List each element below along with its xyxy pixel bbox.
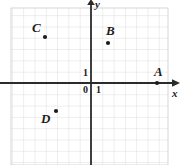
data-point-a <box>155 81 159 85</box>
data-point-b <box>106 41 110 45</box>
y-axis-arrowhead <box>87 0 95 5</box>
data-point-d <box>54 109 58 113</box>
point-label-b: B <box>106 24 115 37</box>
coordinate-plane-figure: y x 0 1 1 A B C D <box>0 0 181 165</box>
plot-svg <box>0 0 181 165</box>
point-label-d: D <box>41 112 50 125</box>
y-axis-one-tick-label: 1 <box>83 68 88 78</box>
point-label-c: C <box>32 21 41 34</box>
x-axis-arrowhead <box>172 79 180 87</box>
x-axis-label: x <box>172 88 178 99</box>
point-label-a: A <box>154 65 163 78</box>
x-axis-one-tick-label: 1 <box>96 85 101 95</box>
y-axis-label: y <box>95 0 100 10</box>
origin-tick-label: 0 <box>83 85 88 95</box>
data-point-c <box>43 35 47 39</box>
